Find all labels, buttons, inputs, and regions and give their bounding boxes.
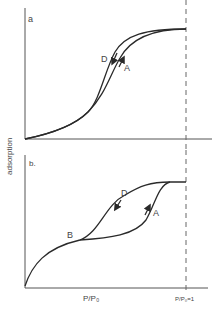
panel-b-label: b.	[29, 159, 36, 168]
panel-a-adsorption-curve	[25, 29, 186, 139]
panel-b-adsorption-arrow	[145, 207, 149, 215]
y-axis-label: adsorption	[5, 138, 14, 175]
panel-a: a D A	[25, 0, 212, 149]
panel-b-label-d: D	[121, 188, 128, 198]
panel-a-adsorption-arrow	[119, 59, 123, 67]
x-axis-label: P/P₀	[83, 294, 99, 303]
panel-b-label-b: B	[67, 230, 73, 240]
panel-b-label-a: A	[153, 208, 159, 218]
isotherm-diagram: a D A b. D A B adsorption P/P₀ P/P₀=1	[0, 0, 217, 309]
panel-a-label-d: D	[101, 54, 108, 64]
panel-b-desorption-curve	[80, 182, 186, 240]
panel-a-label: a	[28, 14, 33, 24]
x-tick-saturation: P/P₀=1	[175, 296, 195, 302]
panel-a-label-a: A	[124, 63, 130, 73]
panel-b: b. D A B	[25, 150, 208, 292]
panel-a-desorption-curve	[25, 29, 186, 139]
panel-b-base-curve	[25, 240, 80, 286]
